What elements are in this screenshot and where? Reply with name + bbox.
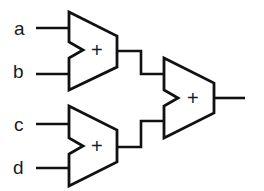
adder-2: + bbox=[69, 106, 117, 186]
adder-1-plus: + bbox=[91, 39, 103, 61]
adder-3-plus: + bbox=[187, 87, 199, 109]
adder-1: + bbox=[69, 12, 117, 90]
adder-3: + bbox=[164, 58, 214, 138]
input-label-a: a bbox=[14, 18, 25, 39]
wire-adder1-to-adder3 bbox=[117, 51, 164, 74]
adder-tree-diagram: a b c d + + + bbox=[0, 0, 264, 191]
adder-2-plus: + bbox=[91, 135, 103, 157]
input-label-d: d bbox=[13, 157, 24, 178]
input-label-b: b bbox=[13, 61, 24, 82]
input-label-c: c bbox=[14, 114, 24, 135]
wire-adder2-to-adder3 bbox=[117, 121, 164, 147]
